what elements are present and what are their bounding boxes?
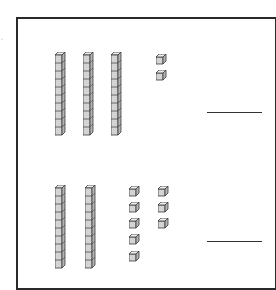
ones-cube	[129, 202, 140, 213]
answer-blank-top[interactable]	[207, 112, 262, 113]
ones-cube	[129, 234, 140, 245]
answer-blank-bottom[interactable]	[207, 241, 262, 242]
ones-cube	[129, 218, 140, 229]
ones-cube	[158, 202, 169, 213]
ones-cube	[156, 54, 167, 65]
problem-label: .	[0, 28, 4, 43]
ones-cube	[129, 251, 140, 262]
ones-cube	[158, 186, 169, 197]
tens-rod	[83, 52, 94, 136]
ones-cube	[158, 218, 169, 229]
tens-rod	[111, 52, 122, 136]
tens-rod	[55, 52, 66, 136]
ones-cube	[129, 186, 140, 197]
tens-rod	[85, 185, 96, 269]
tens-rod	[55, 185, 66, 269]
ones-cube	[156, 70, 167, 81]
